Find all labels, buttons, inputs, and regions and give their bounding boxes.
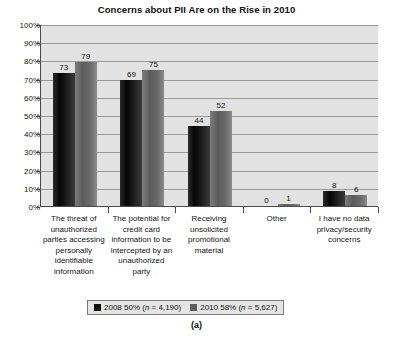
y-axis-tick-label: 90% bbox=[6, 39, 40, 48]
bar-value-label: 44 bbox=[185, 116, 213, 125]
y-axis: 100%90%80%70%60%50%40%30%20%10%0% bbox=[0, 25, 40, 207]
bar bbox=[188, 126, 210, 206]
x-axis-category-label: Receiving unsolicited promotional materi… bbox=[177, 214, 241, 256]
y-axis-tick-label: 10% bbox=[6, 184, 40, 193]
x-axis-tick-mark bbox=[175, 207, 176, 213]
bar-value-label: 6 bbox=[342, 185, 370, 194]
y-axis-tick-label: 20% bbox=[6, 166, 40, 175]
x-axis-tick-mark bbox=[310, 207, 311, 213]
figure-caption: (a) bbox=[0, 320, 393, 330]
legend-label: 2008 50% (n = 4,190) bbox=[104, 303, 181, 312]
bar-value-label: 79 bbox=[72, 52, 100, 61]
x-axis-tick-mark bbox=[108, 207, 109, 213]
chart-figure: Concerns about PII Are on the Rise in 20… bbox=[0, 0, 393, 339]
y-axis-tick-label: 0% bbox=[6, 203, 40, 212]
bar-value-label: 69 bbox=[117, 70, 145, 79]
x-axis-category-label: Other bbox=[245, 214, 309, 225]
y-axis-tick-label: 80% bbox=[6, 57, 40, 66]
chart-legend: 2008 50% (n = 4,190)2010 58% (n = 5,627) bbox=[87, 300, 284, 315]
x-axis-category-label: I have no data privacy/security concerns bbox=[312, 214, 376, 246]
legend-swatch bbox=[94, 304, 101, 311]
plot-area: 7379697544520186 bbox=[40, 25, 378, 207]
bar-value-label: 52 bbox=[207, 101, 235, 110]
y-axis-tick-label: 30% bbox=[6, 148, 40, 157]
chart-title: Concerns about PII Are on the Rise in 20… bbox=[0, 4, 393, 15]
bar-value-label: 75 bbox=[139, 60, 167, 69]
bar bbox=[210, 111, 232, 206]
bar bbox=[345, 195, 367, 206]
gridline bbox=[41, 25, 378, 26]
bar bbox=[75, 62, 97, 206]
gridline bbox=[41, 43, 378, 44]
x-axis-category-label: The potential for credit card informatio… bbox=[110, 214, 174, 277]
bar bbox=[120, 80, 142, 206]
bar-value-label: 73 bbox=[50, 63, 78, 72]
legend-swatch bbox=[190, 304, 197, 311]
legend-entry: 2010 58% (n = 5,627) bbox=[190, 303, 277, 312]
y-axis-tick-label: 50% bbox=[6, 112, 40, 121]
legend-label: 2010 58% (n = 5,627) bbox=[200, 303, 277, 312]
y-axis-tick-label: 60% bbox=[6, 93, 40, 102]
bar bbox=[53, 73, 75, 206]
x-axis-tick-mark bbox=[243, 207, 244, 213]
bar bbox=[142, 70, 164, 207]
x-axis-category-label: The threat of unauthorized parties acces… bbox=[42, 214, 106, 277]
x-axis-labels: The threat of unauthorized parties acces… bbox=[40, 214, 378, 294]
x-axis-tick-mark bbox=[378, 207, 379, 213]
bar bbox=[278, 204, 300, 206]
x-axis-ticks bbox=[40, 207, 378, 213]
y-axis-tick-label: 70% bbox=[6, 75, 40, 84]
y-axis-tick-label: 40% bbox=[6, 130, 40, 139]
y-axis-tick-label: 100% bbox=[6, 21, 40, 30]
legend-entry: 2008 50% (n = 4,190) bbox=[94, 303, 181, 312]
bar-value-label: 1 bbox=[275, 194, 303, 203]
